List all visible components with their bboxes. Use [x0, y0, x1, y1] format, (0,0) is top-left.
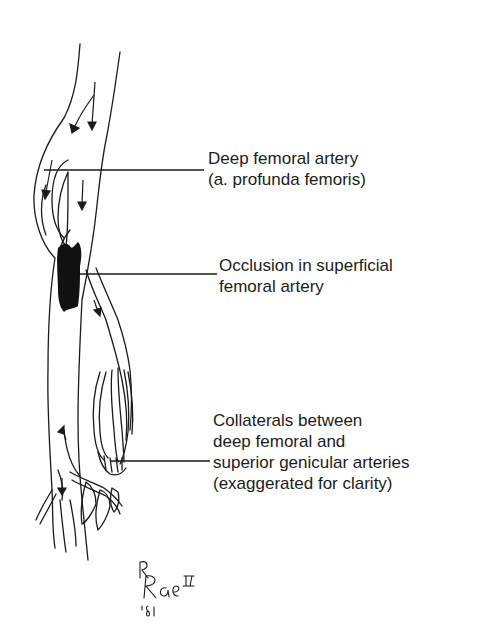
label-line: (exaggerated for clarity)	[213, 473, 410, 494]
label-deep-femoral-artery: Deep femoral artery (a. profunda femoris…	[208, 148, 366, 190]
label-line: Occlusion in superficial	[219, 255, 393, 276]
lower-branches	[36, 490, 76, 552]
label-collaterals: Collaterals between deep femoral and sup…	[213, 410, 410, 494]
label-line: (a. profunda femoris)	[208, 169, 366, 190]
artery-diagram	[0, 0, 479, 640]
artist-signature	[136, 558, 216, 628]
collateral-network	[58, 368, 133, 530]
label-line: superior genicular arteries	[213, 452, 410, 473]
label-line: femoral artery	[219, 276, 393, 297]
label-occlusion: Occlusion in superficial femoral artery	[219, 255, 393, 297]
label-line: deep femoral and	[213, 431, 410, 452]
label-line: Deep femoral artery	[208, 148, 366, 169]
label-line: Collaterals between	[213, 410, 410, 431]
occlusion-mark	[57, 242, 81, 312]
